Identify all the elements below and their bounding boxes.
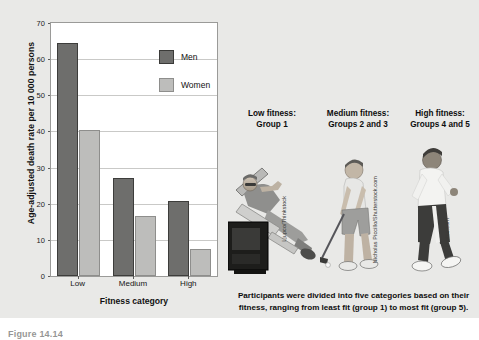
plot-area: Men Women [50, 22, 218, 277]
x-tick-mark [133, 276, 134, 279]
group-high-subtitle: Groups 4 and 5 [402, 119, 478, 130]
x-tick-mark [78, 276, 79, 279]
x-axis-labels: LowMediumHigh [50, 279, 218, 293]
caption-line-1: Participants were divided into five cate… [232, 290, 475, 302]
y-tick-label: 10 [36, 235, 45, 244]
bottom-white-strip [0, 318, 479, 340]
legend-swatch-men [159, 50, 174, 64]
y-tick-label: 70 [36, 19, 45, 28]
y-tick-label: 50 [36, 91, 45, 100]
group-high-title: High fitness: [402, 108, 478, 119]
photo-man-jogging [396, 146, 466, 284]
group-low-subtitle: Group 1 [230, 119, 314, 130]
group-heading-medium: Medium fitness: Groups 2 and 3 [312, 108, 404, 130]
x-tick-mark [188, 276, 189, 279]
photo-credit-low: Ljupco/Thinkstock [281, 196, 287, 242]
group-low-title: Low fitness: [230, 108, 314, 119]
group-heading-low: Low fitness: Group 1 [230, 108, 314, 130]
legend-label-women: Women [181, 80, 210, 90]
x-tick-label-high: High [180, 279, 196, 288]
bar-high-women [190, 249, 211, 276]
y-tick-label: 40 [36, 127, 45, 136]
bar-chart: Age-adjusted death rate per 10 000 perso… [0, 0, 228, 318]
y-tick-label: 30 [36, 163, 45, 172]
bar-medium-women [135, 216, 156, 276]
photo-credit-high: © photos.com [444, 218, 450, 255]
photo-credit-medium: Nicholas Piccillo/Shutterstock.com [372, 176, 378, 263]
group-heading-high: High fitness: Groups 4 and 5 [402, 108, 478, 130]
bar-low-women [79, 130, 100, 276]
group-medium-title: Medium fitness: [312, 108, 404, 119]
y-tick-label: 0 [41, 272, 45, 281]
legend-item-men: Men [159, 50, 210, 64]
bar-medium-men [113, 178, 134, 276]
photo-panel: Low fitness: Group 1 Medium fitness: Gro… [228, 0, 479, 340]
figure-number: Figure 14.14 [8, 329, 63, 339]
legend-swatch-women [159, 78, 174, 92]
x-tick-label-medium: Medium [119, 279, 147, 288]
caption-line-2: fitness, ranging from least fit (group 1… [232, 302, 475, 314]
y-axis-ticks: 010203040506070 [22, 22, 48, 277]
x-axis-title: Fitness category [50, 296, 218, 306]
photo-man-golfing [320, 158, 396, 284]
y-tick-label: 60 [36, 55, 45, 64]
group-medium-subtitle: Groups 2 and 3 [312, 119, 404, 130]
legend-label-men: Men [181, 52, 198, 62]
legend-item-women: Women [159, 78, 210, 92]
figure-container: Age-adjusted death rate per 10 000 perso… [0, 0, 479, 340]
figure-caption: Participants were divided into five cate… [232, 290, 475, 313]
bar-high-men [168, 201, 189, 276]
y-tick-label: 20 [36, 199, 45, 208]
x-tick-label-low: Low [70, 279, 85, 288]
photo-man-reclining [228, 140, 320, 280]
chart-legend: Men Women [159, 50, 210, 106]
bar-low-men [57, 43, 78, 276]
